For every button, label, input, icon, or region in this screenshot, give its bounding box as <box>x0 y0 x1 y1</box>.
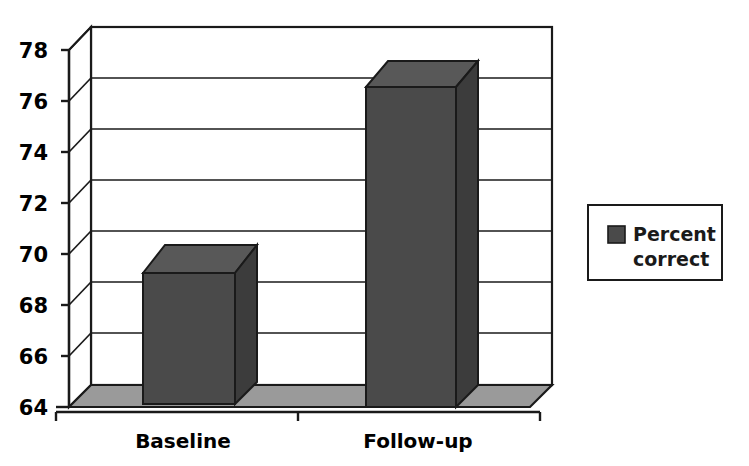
ytick-label-70: 70 <box>19 243 48 267</box>
bar-baseline-side-face <box>235 245 257 404</box>
bar-chart-figure: 78 76 74 72 70 68 66 64 Baseline Follow-… <box>0 0 749 466</box>
ytick-label-64: 64 <box>19 396 48 420</box>
ytick-label-66: 66 <box>19 345 48 369</box>
legend[interactable]: Percent correct <box>588 205 722 280</box>
ytick-label-78: 78 <box>19 39 48 63</box>
category-axis <box>56 412 540 421</box>
bar-baseline-front-face <box>143 273 235 404</box>
ytick-label-74: 74 <box>19 141 48 165</box>
left-wall <box>69 27 91 407</box>
legend-label-line1: Percent <box>633 223 716 245</box>
chart-canvas: 78 76 74 72 70 68 66 64 Baseline Follow-… <box>0 0 749 466</box>
legend-swatch-percent-correct <box>608 226 625 243</box>
legend-label-line2: correct <box>633 248 709 270</box>
ytick-label-68: 68 <box>19 294 48 318</box>
value-axis-ticks <box>56 50 69 407</box>
bar-follow-up[interactable] <box>366 61 478 407</box>
bar-baseline[interactable] <box>143 245 257 404</box>
category-label-follow-up: Follow-up <box>363 429 472 453</box>
category-label-baseline: Baseline <box>135 429 231 453</box>
floor-plane <box>69 385 552 407</box>
ytick-label-76: 76 <box>19 90 48 114</box>
bar-follow-up-front-face <box>366 87 456 407</box>
bar-follow-up-side-face <box>456 61 478 407</box>
ytick-label-72: 72 <box>19 192 48 216</box>
